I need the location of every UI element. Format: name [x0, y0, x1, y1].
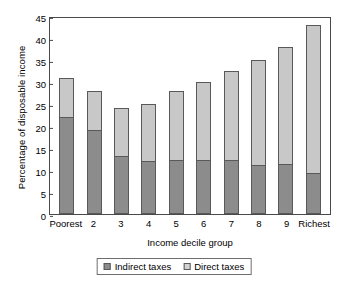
stacked-bar[interactable]	[87, 91, 102, 214]
bar-segment-direct-taxes[interactable]	[307, 26, 320, 173]
bar-segment-direct-taxes[interactable]	[60, 79, 73, 118]
bar-column	[278, 18, 293, 214]
x-axis-tick-label: Poorest	[58, 218, 73, 232]
y-axis-title: Percentage of disposable income	[16, 33, 27, 203]
bar-column	[224, 18, 239, 214]
bar-segment-indirect-taxes[interactable]	[60, 117, 73, 213]
stacked-bar[interactable]	[306, 25, 321, 214]
bar-segment-indirect-taxes[interactable]	[170, 160, 183, 213]
x-axis-tick-label: Richest	[307, 218, 322, 232]
chart-legend: Indirect taxesDirect taxes	[97, 258, 252, 275]
x-axis-tick-label: 5	[169, 218, 184, 232]
stacked-bar[interactable]	[278, 47, 293, 214]
y-axis-tick-label: 40	[35, 35, 50, 46]
stacked-bar[interactable]	[224, 71, 239, 214]
stacked-bar[interactable]	[141, 104, 156, 214]
y-axis-tick-label: 35	[35, 57, 50, 68]
bar-segment-direct-taxes[interactable]	[225, 72, 238, 160]
indirect-swatch	[104, 263, 111, 270]
bar-series-container	[50, 18, 330, 214]
y-axis-tick-label: 20	[35, 123, 50, 134]
stacked-bar[interactable]	[169, 91, 184, 214]
bar-segment-indirect-taxes[interactable]	[115, 156, 128, 213]
y-axis-tick-label: 45	[35, 13, 50, 24]
x-axis-tick-label: 9	[279, 218, 294, 232]
stacked-bar[interactable]	[59, 78, 74, 214]
stacked-bar[interactable]	[196, 82, 211, 214]
bar-column	[141, 18, 156, 214]
bar-column	[114, 18, 129, 214]
bar-column	[87, 18, 102, 214]
chart-figure: Percentage of disposable income 45403530…	[0, 0, 348, 288]
bar-column	[196, 18, 211, 214]
x-axis-tick-label: 6	[196, 218, 211, 232]
x-axis-tick-label: 2	[86, 218, 101, 232]
stacked-bar[interactable]	[114, 108, 129, 214]
bar-segment-indirect-taxes[interactable]	[142, 161, 155, 213]
legend-item[interactable]: Indirect taxes	[104, 261, 172, 272]
legend-label: Indirect taxes	[115, 261, 172, 272]
x-axis-title: Income decile group	[49, 237, 331, 248]
y-axis-tick-label: 10	[35, 167, 50, 178]
y-axis-tick-label: 30	[35, 79, 50, 90]
bar-segment-direct-taxes[interactable]	[252, 61, 265, 165]
bar-segment-indirect-taxes[interactable]	[197, 160, 210, 213]
x-axis-ticks: Poorest23456789Richest	[49, 218, 331, 232]
x-axis-tick-label: 8	[251, 218, 266, 232]
bar-segment-direct-taxes[interactable]	[88, 92, 101, 131]
bar-column	[59, 18, 74, 214]
bar-segment-direct-taxes[interactable]	[197, 83, 210, 160]
legend-label: Direct taxes	[194, 261, 244, 272]
bar-segment-direct-taxes[interactable]	[279, 48, 292, 165]
bar-segment-indirect-taxes[interactable]	[307, 173, 320, 213]
bar-column	[251, 18, 266, 214]
x-axis-tick-label: 3	[113, 218, 128, 232]
y-axis-tick-label: 5	[41, 189, 50, 200]
y-axis-tick-label: 15	[35, 145, 50, 156]
bar-segment-direct-taxes[interactable]	[142, 105, 155, 161]
bar-segment-indirect-taxes[interactable]	[252, 165, 265, 213]
y-axis-tick-label: 25	[35, 101, 50, 112]
bar-column	[306, 18, 321, 214]
bar-column	[169, 18, 184, 214]
bar-segment-indirect-taxes[interactable]	[279, 164, 292, 213]
x-axis-tick-label: 4	[141, 218, 156, 232]
bar-segment-direct-taxes[interactable]	[170, 92, 183, 161]
x-axis-tick-label: 7	[224, 218, 239, 232]
stacked-bar[interactable]	[251, 60, 266, 214]
legend-item[interactable]: Direct taxes	[183, 261, 244, 272]
plot-area: 454035302520151050	[49, 17, 331, 215]
bar-segment-direct-taxes[interactable]	[115, 109, 128, 156]
y-axis-tick-mark	[50, 215, 53, 216]
bar-segment-indirect-taxes[interactable]	[225, 160, 238, 213]
bar-segment-indirect-taxes[interactable]	[88, 130, 101, 213]
direct-swatch	[183, 263, 190, 270]
